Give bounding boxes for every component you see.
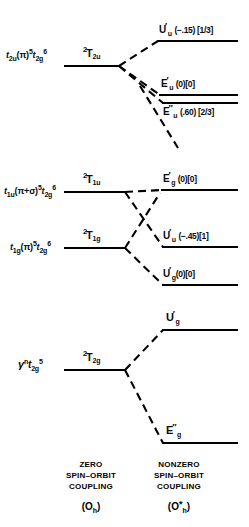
term-label-2T2u: 2T2u	[83, 45, 100, 59]
branch-t1u-to-Eg	[125, 190, 162, 192]
energy-level-diagram	[0, 0, 249, 527]
config-t1g-sub1: 1g	[13, 247, 21, 254]
term-2T1u-sub: 1u	[93, 179, 101, 186]
branch-t2g-to-Ug	[125, 330, 163, 370]
state-Eu-0-values: (0)[0]	[176, 79, 195, 89]
footer-left-line1: ZERO	[79, 460, 102, 469]
footer-right-group: (O*h)	[140, 501, 218, 513]
config-label-t1g: t1g(π)5t2g6	[10, 242, 51, 252]
state-label-Ug-bottom: U′g	[166, 311, 180, 323]
branch-t1u-to-Uu045	[125, 192, 163, 247]
state-Uu-045-sub: u	[172, 236, 176, 243]
branch-t2u-to-Uu	[119, 41, 158, 66]
state-Ug-0-values: (0)[0]	[176, 269, 195, 279]
config-t2u-sub1: 2u	[9, 55, 17, 62]
term-2T2g-letter: T	[86, 351, 93, 363]
level-group-t2g	[64, 330, 238, 443]
state-Uu-015-sub: u	[168, 30, 172, 37]
config-t1g-sub2: 2g	[39, 247, 47, 254]
config-t2u-paren: (π)	[17, 50, 29, 60]
term-2T1u-letter: T	[86, 173, 93, 185]
state-label-Uu-015: U′u (−.15) [1/3]	[159, 24, 213, 35]
branch-t2u-to-Eu060	[119, 66, 163, 103]
config-t1u-paren: (π+σ)	[15, 186, 38, 196]
config-gamma-sup: n	[24, 358, 28, 365]
state-Uu-015-prime: ′	[165, 21, 167, 31]
config-t1u-sub1: 1u	[7, 191, 15, 198]
footer-left-line2: SPIN–ORBIT	[66, 471, 116, 480]
state-label-Ug-0: U′g(0)[0]	[163, 268, 195, 279]
config-t1g-sup: 5	[33, 240, 37, 247]
state-Ug-0-prime: ′	[169, 265, 171, 275]
state-label-Eu-060: E″u (.60) [2/3]	[163, 106, 214, 117]
state-Eg-bottom-prime: ″	[172, 422, 176, 432]
state-Uu-045-values: (−.45)[1]	[178, 231, 208, 241]
footer-left-line3: COUPLING	[69, 482, 113, 491]
config-t2u-sup: 5	[29, 48, 33, 55]
state-Eu-060-prime: ″	[168, 103, 172, 113]
state-Eu-0-prime: ′	[166, 75, 168, 85]
state-Eg-0-prime: ′	[168, 170, 170, 180]
branch-t2g-to-Eg	[125, 370, 163, 443]
state-label-Uu-045: U′u (−.45)[1]	[163, 230, 209, 241]
footer-right-line1: NONZERO	[158, 460, 199, 469]
state-label-Eg-bottom: E″g	[166, 424, 181, 436]
footer-right-group-sup: *	[179, 499, 183, 509]
term-label-2T2g: 2T2g	[83, 349, 100, 363]
term-2T2u-sub: 2u	[93, 53, 101, 60]
state-Eu-060-values: (.60) [2/3]	[180, 107, 214, 117]
config-gamma-sup2: 5	[39, 358, 43, 365]
footer-left-group: (Oh)	[52, 501, 130, 513]
term-label-2T1u: 2T1u	[83, 171, 100, 185]
config-t2u-sup2: 6	[43, 48, 47, 55]
branch-t1g-up	[125, 193, 160, 248]
config-t1u-sup: 5	[38, 184, 42, 191]
config-t1u-sup2: 6	[52, 184, 56, 191]
state-Ug-0-sub: g	[172, 274, 176, 281]
term-2T2u-letter: T	[86, 47, 93, 59]
config-t2u-sub2: 2g	[35, 55, 43, 62]
config-t1u-sub2: 2g	[44, 191, 52, 198]
state-Eu-060-sub: u	[173, 112, 177, 119]
config-t1g-paren: (π)	[21, 242, 33, 252]
footer-right-group-letter: O	[171, 501, 179, 512]
config-label-gamma: γnt2g5	[18, 358, 43, 370]
footer-right-line2: SPIN–ORBIT	[154, 471, 204, 480]
state-Eg-0-values: (0)[0]	[178, 174, 197, 184]
state-label-Eu-0: E′u (0)[0]	[161, 78, 195, 89]
state-Uu-015-values: (−.15) [1/3]	[174, 25, 213, 35]
footer-right-group-sub: h	[183, 507, 187, 514]
state-Eu-0-sub: u	[169, 84, 173, 91]
footer-left-group-sub: h	[93, 507, 97, 514]
footer-caption-right: NONZERO SPIN–ORBIT COUPLING (O*h)	[140, 459, 218, 513]
config-t1g-sup2: 6	[47, 240, 51, 247]
term-2T1g-letter: T	[86, 229, 93, 241]
footer-right-line3: COUPLING	[157, 482, 201, 491]
config-label-t1u: t1u(π+σ)5t2g6	[4, 186, 56, 196]
config-label-t2u: t2u(π)5t2g6	[6, 50, 47, 60]
state-label-Eg-0: E′g (0)[0]	[163, 173, 197, 184]
state-Eg-bottom-sub: g	[177, 431, 181, 438]
term-2T1g-sub: 1g	[93, 235, 101, 242]
term-label-2T1g: 2T1g	[83, 227, 100, 241]
state-Eg-0-sub: g	[171, 179, 175, 186]
state-Uu-045-prime: ′	[169, 227, 171, 237]
config-gamma-sub2: 2g	[31, 365, 39, 372]
state-Ug-bottom-sub: g	[175, 318, 179, 325]
term-2T2g-sub: 2g	[93, 357, 101, 364]
footer-caption-left: ZERO SPIN–ORBIT COUPLING (Oh)	[52, 459, 130, 513]
branch-t1g-to-Ug	[125, 248, 163, 285]
footer-left-group-letter: O	[85, 501, 93, 512]
